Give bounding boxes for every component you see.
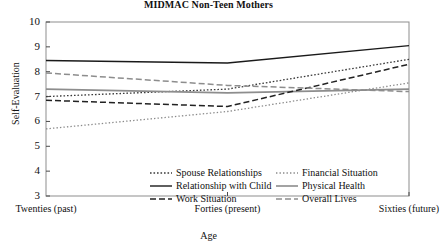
y-axis-label: Self-Evaluation bbox=[10, 49, 21, 139]
series-line-relationship-with-child bbox=[46, 46, 409, 63]
legend-label: Financial Situation bbox=[302, 168, 378, 178]
legend-label: Overall Lives bbox=[302, 194, 357, 204]
legend-label: Spouse Relationships bbox=[176, 168, 262, 178]
y-tick-label-3: 3 bbox=[18, 190, 40, 201]
legend-item-overall-lives: Overall Lives bbox=[276, 192, 412, 205]
series-line-overall-lives bbox=[46, 73, 409, 92]
x-tick-label-0: Twenties (past) bbox=[0, 203, 111, 214]
data-series-group bbox=[46, 46, 409, 129]
y-tick-label-4: 4 bbox=[18, 165, 40, 176]
y-tick-label-7: 7 bbox=[18, 91, 40, 102]
legend-swatch-icon bbox=[150, 182, 172, 190]
y-tick-label-5: 5 bbox=[18, 140, 40, 151]
legend-swatch-icon bbox=[150, 169, 172, 177]
legend-swatch-icon bbox=[276, 195, 298, 203]
legend-swatch-icon bbox=[276, 182, 298, 190]
legend-swatch-icon bbox=[276, 169, 298, 177]
legend-label: Work Situation bbox=[176, 194, 237, 204]
y-tick-label-6: 6 bbox=[18, 115, 40, 126]
chart-legend: Spouse RelationshipsFinancial SituationR… bbox=[150, 166, 412, 205]
legend-swatch-icon bbox=[150, 195, 172, 203]
y-tick-label-9: 9 bbox=[18, 41, 40, 52]
legend-label: Physical Health bbox=[302, 181, 365, 191]
legend-item-physical-health: Physical Health bbox=[276, 179, 412, 192]
legend-item-relationship-with-child: Relationship with Child bbox=[150, 179, 276, 192]
legend-item-spouse-relationships: Spouse Relationships bbox=[150, 166, 276, 179]
legend-label: Relationship with Child bbox=[176, 181, 272, 191]
legend-item-work-situation: Work Situation bbox=[150, 192, 276, 205]
legend-item-financial-situation: Financial Situation bbox=[276, 166, 412, 179]
y-tick-label-10: 10 bbox=[18, 16, 40, 27]
x-axis-label: Age bbox=[0, 230, 417, 241]
y-tick-label-8: 8 bbox=[18, 66, 40, 77]
